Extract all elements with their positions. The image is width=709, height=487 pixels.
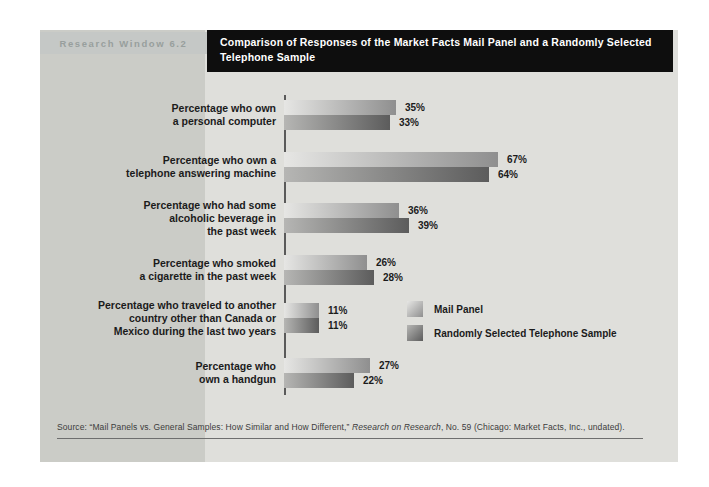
mail-panel-bar xyxy=(284,203,399,218)
value-label: 22% xyxy=(363,374,383,387)
mail-panel-bar xyxy=(284,255,367,270)
bar-chart: Percentage who owna personal computer35%… xyxy=(40,30,678,462)
telephone-sample-swatch-icon xyxy=(407,325,423,341)
research-window-panel: Research Window 6.2 Comparison of Respon… xyxy=(40,30,678,462)
telephone-sample-bar xyxy=(284,115,390,130)
legend-label-telephone-sample: Randomly Selected Telephone Sample xyxy=(434,328,617,339)
value-label: 11% xyxy=(328,319,347,332)
category-label: Percentage who owna personal computer xyxy=(40,102,276,128)
value-label: 28% xyxy=(383,271,403,284)
value-label: 26% xyxy=(376,256,396,269)
bottom-rule xyxy=(57,438,643,439)
mail-panel-bar xyxy=(284,358,370,373)
category-label: Percentage who had somealcoholic beverag… xyxy=(40,199,276,238)
telephone-sample-bar xyxy=(284,167,489,182)
value-label: 67% xyxy=(507,153,527,166)
mail-panel-swatch-icon xyxy=(407,301,423,317)
mail-panel-bar xyxy=(284,303,319,318)
mail-panel-bar xyxy=(284,152,498,167)
value-label: 39% xyxy=(418,219,438,232)
telephone-sample-bar xyxy=(284,318,319,333)
value-label: 11% xyxy=(328,304,347,317)
telephone-sample-bar xyxy=(284,373,354,388)
mail-panel-bar xyxy=(284,100,396,115)
category-label: Percentage whoown a handgun xyxy=(40,360,276,386)
value-label: 64% xyxy=(498,168,518,181)
legend: Mail Panel Randomly Selected Telephone S… xyxy=(407,301,617,349)
value-label: 33% xyxy=(399,116,419,129)
telephone-sample-bar xyxy=(284,218,409,233)
category-label: Percentage who own atelephone answering … xyxy=(40,154,276,180)
value-label: 36% xyxy=(408,204,428,217)
page: Research Window 6.2 Comparison of Respon… xyxy=(0,0,709,487)
legend-item-mail-panel: Mail Panel xyxy=(407,301,617,317)
telephone-sample-bar xyxy=(284,270,374,285)
category-label: Percentage who traveled to anothercountr… xyxy=(40,299,276,338)
axis-line xyxy=(284,95,286,395)
category-label: Percentage who smokeda cigarette in the … xyxy=(40,257,276,283)
source-suffix: , No. 59 (Chicago: Market Facts, Inc., u… xyxy=(441,422,625,432)
source-italic: Research on Research xyxy=(352,422,441,432)
source-note: Source: “Mail Panels vs. General Samples… xyxy=(57,422,661,432)
legend-label-mail-panel: Mail Panel xyxy=(434,304,483,315)
source-prefix: Source: “Mail Panels vs. General Samples… xyxy=(57,422,352,432)
value-label: 27% xyxy=(379,359,399,372)
value-label: 35% xyxy=(405,101,425,114)
legend-item-telephone-sample: Randomly Selected Telephone Sample xyxy=(407,325,617,341)
